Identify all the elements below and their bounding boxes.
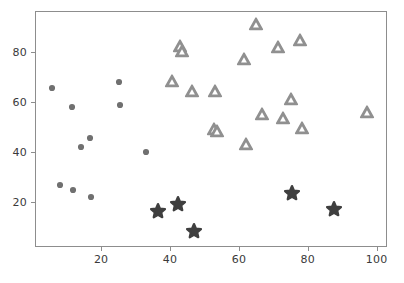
data-point-triangle-up (271, 40, 286, 55)
plot-axes-area (35, 11, 387, 247)
data-point-triangle-up (275, 110, 290, 125)
x-axis-tick-label: 60 (232, 253, 246, 266)
y-axis-tick-label: 80 (13, 46, 27, 59)
x-axis-tick (239, 247, 240, 251)
data-point-triangle-up (164, 73, 179, 88)
data-point-circle (78, 144, 85, 151)
x-axis-tick-label: 40 (163, 253, 177, 266)
y-axis-tick (31, 202, 35, 203)
data-point-circle (87, 134, 94, 141)
data-point-star (150, 203, 167, 220)
y-axis-tick (31, 102, 35, 103)
data-point-circle (57, 182, 64, 189)
data-point-triangle-up (209, 124, 224, 139)
data-point-triangle-up (255, 107, 270, 122)
data-point-triangle-up (295, 120, 310, 135)
x-axis-tick (101, 247, 102, 251)
data-point-circle (87, 194, 94, 201)
data-point-triangle-up (293, 32, 308, 47)
data-point-circle (116, 102, 123, 109)
data-point-star (186, 222, 203, 239)
data-point-star (325, 201, 342, 218)
x-axis-tick-label: 80 (301, 253, 315, 266)
data-point-triangle-up (283, 92, 298, 107)
data-point-star (283, 185, 300, 202)
data-point-circle (116, 79, 123, 86)
data-point-circle (49, 85, 56, 92)
x-axis-tick (308, 247, 309, 251)
x-axis-tick-label: 100 (366, 253, 388, 266)
data-point-star (170, 195, 187, 212)
x-axis-tick-label: 20 (94, 253, 108, 266)
y-axis-tick-label: 20 (13, 196, 27, 209)
y-axis-tick-label: 40 (13, 146, 27, 159)
y-axis-tick (31, 52, 35, 53)
data-point-circle (143, 149, 150, 156)
data-point-triangle-up (237, 51, 252, 66)
x-axis-tick (377, 247, 378, 251)
data-point-triangle-up (249, 17, 264, 32)
data-point-triangle-up (184, 84, 199, 99)
data-point-circle (70, 186, 77, 193)
data-point-triangle-up (175, 43, 190, 58)
data-point-triangle-up (238, 137, 253, 152)
y-axis-tick-label: 60 (13, 96, 27, 109)
y-axis-tick (31, 152, 35, 153)
x-axis-tick (170, 247, 171, 251)
data-point-triangle-up (208, 83, 223, 98)
data-point-triangle-up (359, 105, 374, 120)
data-point-circle (69, 104, 76, 111)
scatter-plot-figure: 2040608010020406080 (0, 0, 404, 283)
